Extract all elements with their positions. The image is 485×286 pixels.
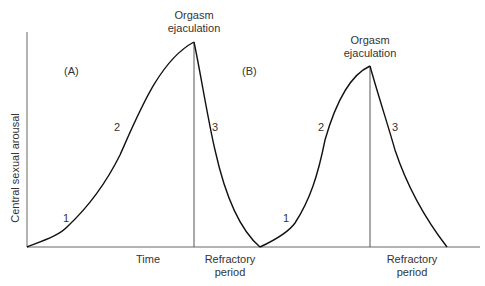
phase-a-3: 3 (212, 121, 218, 134)
panel-a-label: (A) (64, 65, 79, 78)
x-axis-label: Time (136, 253, 160, 266)
refractory-a-label: Refractory period (198, 253, 262, 279)
peak-b-label: Orgasm ejaculation (338, 34, 402, 60)
refractory-b-label: Refractory period (380, 253, 444, 279)
arousal-diagram (0, 0, 485, 286)
curve-b-fall (370, 66, 447, 247)
phase-b-1: 1 (283, 212, 289, 225)
phase-b-2: 2 (318, 121, 324, 134)
curve-a-rise (27, 42, 194, 247)
phase-a-2: 2 (114, 121, 120, 134)
panel-b-label: (B) (242, 65, 257, 78)
curve-b-rise (260, 66, 370, 247)
phase-b-3: 3 (392, 121, 398, 134)
phase-a-1: 1 (63, 212, 69, 225)
peak-a-label: Orgasm ejaculation (162, 9, 226, 35)
y-axis-label: Central sexual arousal (9, 103, 21, 233)
